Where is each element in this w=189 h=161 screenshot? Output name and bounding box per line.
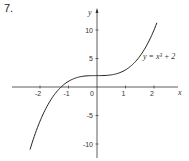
y-tick-label: 10 [85, 27, 93, 34]
x-tick-label: -2 [35, 90, 41, 97]
cubic-graph: -2-1012105-5-10 x y y = x³ + 2 [0, 0, 189, 161]
y-tick-label: -5 [87, 112, 93, 119]
cubic-curve [30, 23, 157, 150]
y-axis-arrow-icon [96, 8, 99, 13]
x-tick-label: 0 [90, 90, 94, 97]
curve-annotation: y = x³ + 2 [142, 52, 175, 61]
y-tick-label: -10 [83, 141, 93, 148]
y-tick-label: 5 [89, 55, 93, 62]
y-axis-label: y [87, 8, 92, 17]
x-axis-label: x [177, 88, 182, 97]
x-tick-label: -1 [63, 90, 69, 97]
x-tick-label: 1 [122, 90, 126, 97]
x-tick-label: 2 [150, 90, 154, 97]
